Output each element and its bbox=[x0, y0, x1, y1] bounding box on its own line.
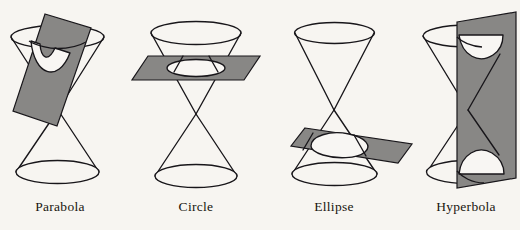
ellipse-base-ellipse bbox=[292, 163, 377, 186]
circle-top-rim-ellipse bbox=[151, 22, 241, 45]
hyperbola-label: Hyperbola bbox=[436, 199, 496, 214]
ellipse-label: Ellipse bbox=[314, 199, 354, 214]
circle-base-ellipse bbox=[155, 165, 237, 188]
circle-lower-nappe bbox=[155, 114, 237, 188]
panel-ellipse: Ellipse bbox=[291, 23, 412, 215]
panel-parabola: Parabola bbox=[11, 14, 104, 214]
conic-sections-diagram: Parabola Circle bbox=[0, 0, 520, 230]
parabola-base-ellipse bbox=[16, 161, 99, 184]
ellipse-upper-right-edge bbox=[334, 33, 374, 110]
panel-circle: Circle bbox=[132, 22, 260, 215]
conic-sections-figure: Parabola Circle bbox=[0, 0, 520, 230]
circle-label: Circle bbox=[179, 199, 214, 214]
ellipse-upper-nappe bbox=[295, 23, 375, 111]
ellipse-top-rim-ellipse bbox=[295, 23, 375, 44]
parabola-label: Parabola bbox=[35, 199, 85, 214]
ellipse-upper-left-edge bbox=[295, 33, 334, 110]
panel-hyperbola: Hyperbola bbox=[423, 12, 516, 214]
